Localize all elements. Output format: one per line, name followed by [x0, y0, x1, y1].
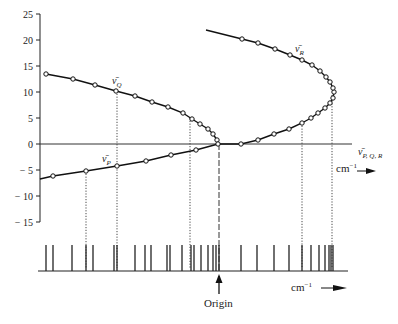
data-point	[316, 111, 320, 115]
data-point	[318, 69, 322, 73]
branch-labels: ν̄Q ν̄R ν̄P ν̄P, Q, R	[102, 43, 383, 167]
data-point	[256, 138, 260, 142]
arrow-right-icon	[333, 285, 347, 291]
label-pqr: ν̄P, Q, R	[358, 146, 383, 160]
data-point	[309, 116, 313, 120]
y-tick-label: 5	[28, 113, 33, 124]
data-point	[272, 132, 276, 136]
data-point	[194, 148, 198, 152]
y-tick-label: 20	[23, 35, 33, 46]
y-tick-label: − 10	[15, 191, 33, 202]
curve-ν̄R	[206, 30, 334, 144]
arrow-up-icon	[216, 274, 223, 283]
data-point	[216, 142, 220, 146]
data-point	[166, 105, 170, 109]
data-point	[114, 89, 118, 93]
y-tick-label: 0	[28, 139, 33, 150]
data-point	[324, 75, 328, 79]
data-point	[300, 121, 304, 125]
arrow-right-icon	[366, 168, 376, 174]
data-point	[310, 63, 314, 67]
data-point	[331, 96, 335, 100]
y-axis: 2520151050− 5− 10− 15	[15, 9, 40, 228]
data-point	[239, 142, 243, 146]
data-point	[287, 127, 291, 131]
y-tick-label: − 15	[15, 217, 33, 228]
label-r: ν̄R	[295, 43, 304, 57]
svg-text:cm−1: cm−1	[291, 281, 312, 293]
svg-text:cm−1: cm−1	[336, 162, 357, 174]
data-point	[328, 80, 332, 84]
origin-marker: Origin	[204, 274, 233, 309]
label-p: ν̄P	[102, 153, 111, 167]
data-point	[181, 111, 185, 115]
data-point	[273, 47, 277, 51]
data-point	[198, 122, 202, 126]
data-point	[211, 132, 215, 136]
curve-ν̄Q	[46, 74, 217, 140]
data-point	[44, 72, 48, 76]
data-point	[93, 83, 97, 87]
dotted-guides	[86, 91, 332, 272]
data-point	[71, 77, 75, 81]
origin-label: Origin	[204, 297, 233, 309]
branch-curves	[40, 30, 336, 179]
data-point	[240, 37, 244, 41]
data-point	[190, 117, 194, 121]
data-point	[206, 127, 210, 131]
data-point	[331, 86, 335, 90]
data-point	[300, 58, 304, 62]
data-point	[133, 94, 137, 98]
label-q: ν̄Q	[112, 75, 122, 89]
fortrat-diagram: 2520151050− 5− 10− 15 ν̄Q ν̄R ν̄P ν̄P, Q…	[0, 0, 398, 324]
data-point	[84, 169, 88, 173]
y-tick-label: 15	[23, 61, 33, 72]
upper-unit-label: cm−1	[336, 162, 376, 174]
y-tick-label: − 5	[20, 165, 33, 176]
data-point	[144, 159, 148, 163]
data-point	[323, 106, 327, 110]
data-point	[115, 164, 119, 168]
lower-unit-label: cm−1	[291, 281, 347, 293]
data-point	[288, 53, 292, 57]
data-point	[51, 174, 55, 178]
y-tick-label: 25	[23, 9, 33, 20]
data-point	[150, 100, 154, 104]
y-tick-label: 10	[23, 87, 33, 98]
data-point	[169, 153, 173, 157]
data-point	[328, 101, 332, 105]
spectrum	[38, 245, 348, 271]
curve-ν̄P	[40, 144, 218, 179]
data-point	[256, 41, 260, 45]
